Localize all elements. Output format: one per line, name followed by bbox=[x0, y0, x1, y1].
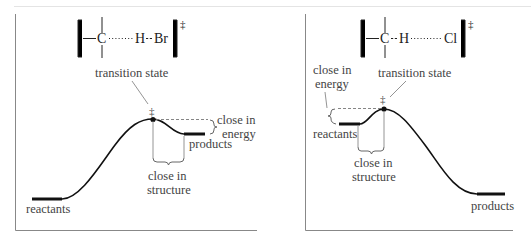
atom-c: C bbox=[380, 31, 389, 46]
ts-structure-right: C H Cl ‡ bbox=[361, 17, 474, 58]
energy-brace bbox=[328, 109, 336, 124]
label-close-in-structure-2: structure bbox=[147, 183, 191, 197]
atom-cl: Cl bbox=[444, 31, 457, 46]
atom-h: H bbox=[399, 31, 409, 46]
atom-h: H bbox=[135, 31, 145, 46]
label-close-in-structure-1: close in bbox=[354, 156, 393, 170]
diagram-left: C H Br ‡ transition state ‡ close in ene… bbox=[16, 14, 258, 231]
label-close-in-energy-2: energy bbox=[315, 77, 350, 91]
ts-point bbox=[381, 106, 386, 111]
atom-br: Br bbox=[154, 31, 168, 46]
label-close-in-structure-1: close in bbox=[148, 169, 187, 183]
ts-pointer-line bbox=[390, 81, 406, 97]
right-bracket bbox=[173, 20, 177, 57]
diagram-right: C H Cl ‡ transition state ‡ close in ene… bbox=[306, 14, 515, 231]
label-transition-state: transition state bbox=[95, 66, 169, 80]
label-reactants: reactants bbox=[26, 202, 71, 216]
energy-brace bbox=[210, 120, 217, 134]
ts-dagger: ‡ bbox=[149, 105, 155, 117]
structure-brace bbox=[358, 147, 384, 154]
double-dagger: ‡ bbox=[180, 18, 186, 30]
label-close-in-energy-1: close in bbox=[217, 113, 256, 127]
atom-c: C bbox=[97, 31, 106, 46]
label-reactants: reactants bbox=[313, 127, 358, 141]
label-close-in-structure-2: structure bbox=[352, 170, 396, 184]
label-products: products bbox=[189, 137, 232, 151]
energy-pointer-line bbox=[325, 92, 327, 108]
ts-pointer-line bbox=[132, 81, 148, 104]
label-products: products bbox=[471, 199, 514, 213]
left-bracket bbox=[361, 20, 365, 57]
ts-structure-left: C H Br ‡ bbox=[78, 17, 186, 58]
left-bracket bbox=[78, 20, 82, 57]
energy-diagrams: C H Br ‡ transition state ‡ close in ene… bbox=[0, 0, 531, 241]
structure-brace bbox=[153, 158, 184, 165]
right-bracket bbox=[461, 20, 465, 57]
double-dagger: ‡ bbox=[468, 18, 474, 30]
ts-dagger: ‡ bbox=[380, 93, 386, 105]
label-transition-state: transition state bbox=[378, 66, 452, 80]
label-close-in-energy-1: close in bbox=[313, 63, 352, 77]
